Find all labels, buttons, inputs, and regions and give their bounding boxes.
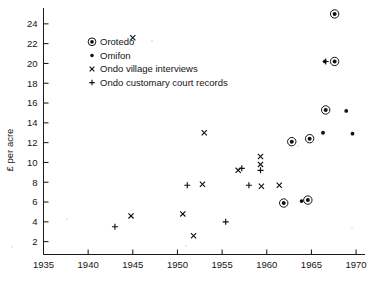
marker-dot-core — [306, 198, 310, 202]
marker-dot-core — [333, 59, 337, 63]
series-orotedo — [280, 10, 339, 207]
marker-dot — [300, 199, 304, 203]
marker-x — [277, 183, 282, 188]
marker-x — [200, 182, 205, 187]
x-tick-label: 1950 — [167, 259, 188, 270]
x-tick-label: 1965 — [301, 259, 322, 270]
legend-item-label: Ondo village interviews — [100, 63, 198, 74]
marker-x — [180, 211, 185, 216]
x-axis-ticks: 19351940194519501955196019651970 — [33, 250, 367, 270]
y-tick-label: 22 — [27, 38, 38, 49]
legend-item-label: Orotedo — [100, 36, 134, 47]
marker-plus — [89, 80, 95, 86]
marker-x — [258, 162, 263, 167]
series-omifon — [300, 60, 355, 203]
legend-item: Ondo customary court records — [89, 77, 228, 88]
legend-item: Ondo village interviews — [90, 63, 198, 74]
marker-dot — [344, 109, 348, 113]
x-tick-label: 1970 — [345, 259, 366, 270]
y-tick-label: 2 — [32, 236, 37, 247]
marker-plus — [246, 182, 252, 188]
y-tick-label: 18 — [27, 78, 38, 89]
x-tick-label: 1945 — [122, 259, 143, 270]
y-tick-label: 12 — [27, 137, 38, 148]
y-tick-label: 6 — [32, 196, 37, 207]
scatter-chart: 24681012141618202224 1935194019451950195… — [0, 0, 372, 283]
y-tick-label: 16 — [27, 97, 38, 108]
y-tick-label: 10 — [27, 157, 38, 168]
x-tick-label: 1935 — [33, 259, 54, 270]
legend-item: Orotedo — [88, 36, 134, 47]
marker-x — [202, 130, 207, 135]
data-points-layer — [112, 10, 354, 239]
marker-x — [90, 67, 95, 72]
marker-plus — [323, 58, 329, 64]
y-axis-ticks: 24681012141618202224 — [27, 18, 49, 247]
marker-dot-core — [324, 108, 328, 112]
x-tick-label: 1955 — [212, 259, 233, 270]
x-tick-label: 1960 — [256, 259, 277, 270]
y-tick-label: 20 — [27, 58, 38, 69]
marker-dot — [90, 54, 93, 57]
legend-item-label: Ondo customary court records — [100, 77, 228, 88]
y-tick-label: 8 — [32, 177, 37, 188]
marker-dot — [351, 132, 355, 136]
marker-dot-core — [290, 140, 294, 144]
marker-dot-core — [308, 137, 312, 141]
chart-canvas: 24681012141618202224 1935194019451950195… — [0, 0, 372, 283]
y-tick-label: 14 — [27, 117, 38, 128]
legend-item-label: Omifon — [100, 50, 131, 61]
marker-dot-core — [333, 12, 337, 16]
x-tick-label: 1940 — [78, 259, 99, 270]
marker-plus — [239, 165, 245, 171]
marker-dot — [321, 131, 325, 135]
marker-plus — [258, 167, 264, 173]
marker-plus — [223, 219, 229, 225]
marker-x — [259, 184, 264, 189]
marker-x — [128, 213, 133, 218]
marker-plus — [184, 182, 190, 188]
y-tick-label: 24 — [27, 18, 38, 29]
marker-x — [258, 154, 263, 159]
marker-x — [191, 233, 196, 238]
y-tick-label: 4 — [32, 216, 37, 227]
marker-dot-core — [282, 201, 286, 205]
marker-dot-core — [90, 40, 94, 44]
marker-plus — [112, 224, 118, 230]
chart-legend: OrotedoOmifonOndo village interviewsOndo… — [88, 36, 228, 88]
chart-axes — [44, 8, 366, 255]
y-axis-title: £ per acre — [4, 129, 15, 172]
legend-item: Omifon — [90, 50, 130, 61]
